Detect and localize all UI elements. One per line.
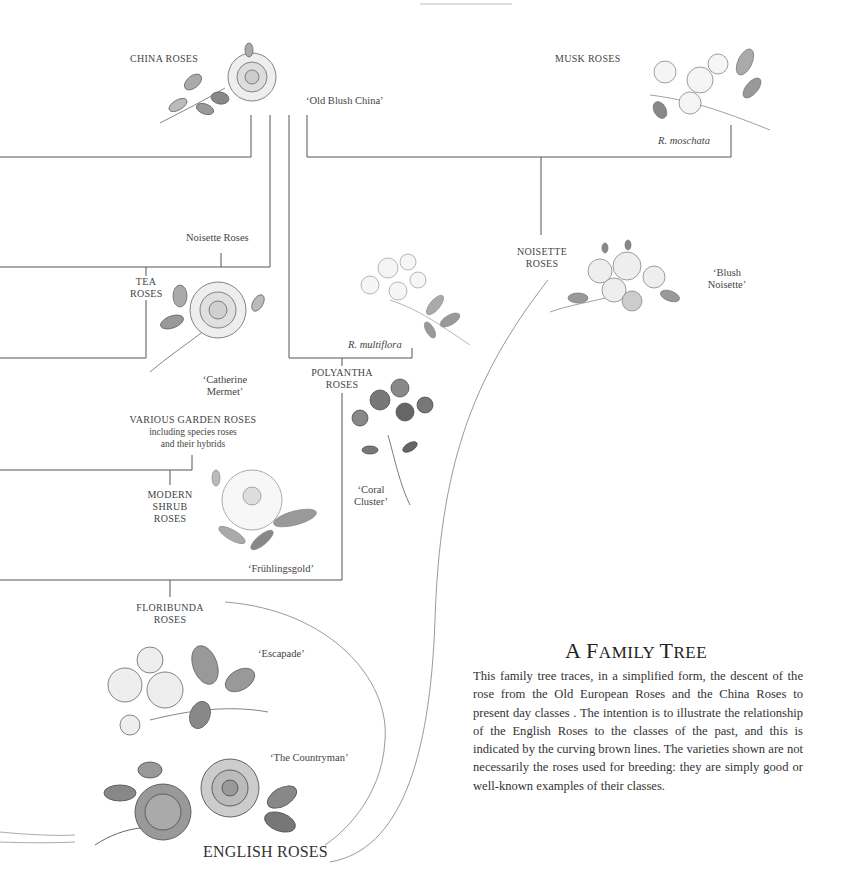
variety-r-moschata: R. moschata bbox=[658, 135, 710, 147]
diagram-description: This family tree traces, in a simplified… bbox=[473, 667, 803, 795]
polyantha-line2: ROSES bbox=[305, 379, 379, 391]
various-garden-line2: including species roses bbox=[120, 426, 266, 438]
variety-coral-cluster: ‘Coral Cluster’ bbox=[350, 484, 392, 508]
label-modern-shrub-roses: MODERN SHRUB ROSES bbox=[142, 489, 198, 525]
blush-noisette-line2: Noisette’ bbox=[702, 279, 752, 291]
title-cap-t: T bbox=[660, 638, 674, 663]
label-english-roses: ENGLISH ROSES bbox=[203, 843, 328, 861]
modern-shrub-line3: ROSES bbox=[142, 513, 198, 525]
variety-r-multiflora: R. multiflora bbox=[348, 339, 402, 351]
diagram-title: A FAMILY TREE bbox=[470, 638, 802, 664]
tea-roses-line1: TEA bbox=[130, 276, 162, 288]
tea-roses-line2: ROSES bbox=[130, 288, 162, 300]
variety-the-countryman: ‘The Countryman’ bbox=[270, 752, 348, 764]
floribunda-line1: FLORIBUNDA bbox=[134, 602, 206, 614]
variety-blush-noisette: ‘Blush Noisette’ bbox=[702, 267, 752, 291]
label-floribunda-roses: FLORIBUNDA ROSES bbox=[134, 602, 206, 626]
title-small-ree: REE bbox=[673, 643, 707, 662]
variety-escapade: ‘Escapade’ bbox=[258, 648, 305, 660]
variety-catherine-mermet: ‘Catherine Mermet’ bbox=[196, 374, 254, 398]
title-part-a: A bbox=[565, 638, 586, 663]
title-small-amily: AMILY bbox=[599, 643, 660, 662]
escapade-illustration bbox=[108, 642, 268, 735]
label-various-garden-roses: VARIOUS GARDEN ROSES including species r… bbox=[120, 414, 266, 450]
countryman-illustration bbox=[95, 759, 300, 845]
polyantha-line1: POLYANTHA bbox=[305, 367, 379, 379]
modern-shrub-line2: SHRUB bbox=[142, 501, 198, 513]
variety-old-blush-china: ‘Old Blush China’ bbox=[306, 95, 384, 107]
variety-fruhlingsgold: ‘Frühlingsgold’ bbox=[248, 563, 314, 575]
label-polyantha-roses: POLYANTHA ROSES bbox=[305, 367, 379, 391]
catherine-mermet-line1: ‘Catherine bbox=[196, 374, 254, 386]
catherine-mermet-illustration bbox=[150, 282, 267, 372]
blush-noisette-line1: ‘Blush bbox=[702, 267, 752, 279]
floribunda-line2: ROSES bbox=[134, 614, 206, 626]
noisette-roses-line2: ROSES bbox=[510, 258, 574, 270]
coral-cluster-line1: ‘Coral bbox=[350, 484, 392, 496]
label-noisette-roses: NOISETTE ROSES bbox=[510, 246, 574, 270]
tree-lines bbox=[0, 4, 731, 597]
noisette-roses-line1: NOISETTE bbox=[510, 246, 574, 258]
various-garden-line1: VARIOUS GARDEN ROSES bbox=[120, 414, 266, 426]
modern-shrub-line1: MODERN bbox=[142, 489, 198, 501]
multiflora-illustration bbox=[361, 254, 470, 345]
label-tea-roses: TEA ROSES bbox=[130, 276, 162, 300]
title-cap-f: F bbox=[586, 638, 599, 663]
label-musk-roses: MUSK ROSES bbox=[555, 53, 621, 65]
various-garden-line3: and their hybrids bbox=[120, 438, 266, 450]
label-noisette-roses-small: Noisette Roses bbox=[186, 232, 249, 244]
musk-rose-illustration bbox=[650, 46, 770, 130]
coral-cluster-line2: Cluster’ bbox=[350, 496, 392, 508]
catherine-mermet-line2: Mermet’ bbox=[196, 386, 254, 398]
fruhlingsgold-illustration bbox=[212, 470, 318, 553]
label-china-roses: CHINA ROSES bbox=[130, 53, 198, 65]
